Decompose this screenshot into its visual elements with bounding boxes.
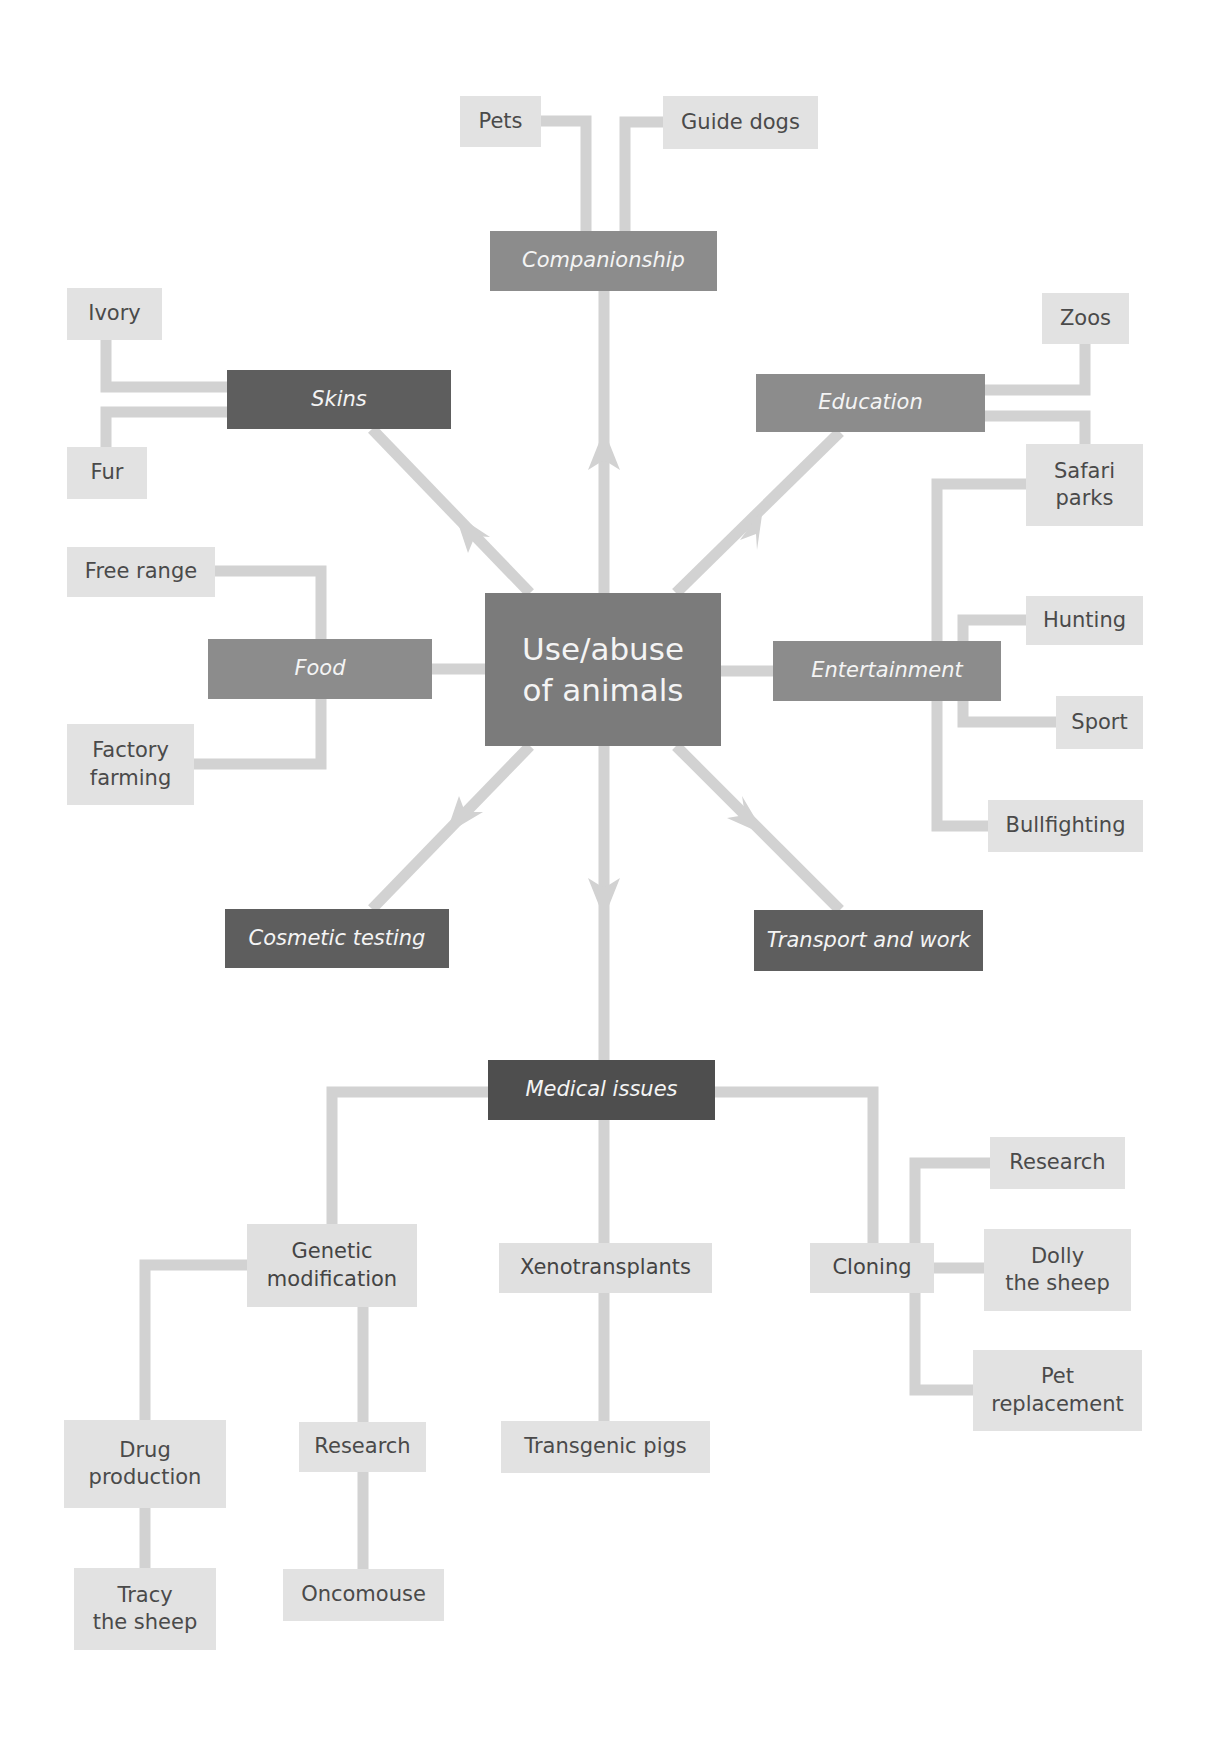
leaf-clone-research: Research	[990, 1137, 1125, 1189]
category-education: Education	[756, 374, 985, 432]
leaf-dolly-the-sheep: Dolly the sheep	[984, 1229, 1131, 1311]
central-topic: Use/abuse of animals	[485, 593, 721, 746]
category-skins: Skins	[227, 370, 451, 429]
leaf-gm-research: Research	[299, 1422, 426, 1472]
category-medical-issues: Medical issues	[488, 1060, 715, 1120]
leaf-hunting: Hunting	[1026, 596, 1143, 645]
leaf-free-range: Free range	[67, 547, 215, 597]
leaf-oncomouse: Oncomouse	[283, 1569, 444, 1621]
leaf-safari-parks: Safari parks	[1026, 444, 1143, 526]
category-entertainment: Entertainment	[773, 641, 1001, 701]
leaf-bullfighting: Bullfighting	[988, 800, 1143, 852]
category-companionship: Companionship	[490, 231, 717, 291]
leaf-guide-dogs: Guide dogs	[663, 96, 818, 149]
leaf-pet-replacement: Pet replacement	[973, 1350, 1142, 1431]
sub-xenotransplants: Xenotransplants	[499, 1243, 712, 1293]
leaf-zoos: Zoos	[1042, 293, 1129, 344]
category-food: Food	[208, 639, 432, 699]
sub-genetic-modification: Genetic modification	[247, 1224, 417, 1307]
leaf-ivory: Ivory	[67, 288, 162, 340]
leaf-drug-production: Drug production	[64, 1420, 226, 1508]
category-transport-work: Transport and work	[754, 910, 983, 971]
mind-map-canvas: Use/abuse of animals Companionship Pets …	[0, 0, 1209, 1737]
leaf-sport: Sport	[1056, 696, 1143, 749]
leaf-tracy-the-sheep: Tracy the sheep	[74, 1568, 216, 1650]
sub-cloning: Cloning	[810, 1243, 934, 1293]
leaf-pets: Pets	[460, 96, 541, 147]
leaf-fur: Fur	[67, 447, 147, 499]
leaf-factory-farming: Factory farming	[67, 724, 194, 805]
leaf-transgenic-pigs: Transgenic pigs	[501, 1421, 710, 1473]
category-cosmetic-testing: Cosmetic testing	[225, 909, 449, 968]
